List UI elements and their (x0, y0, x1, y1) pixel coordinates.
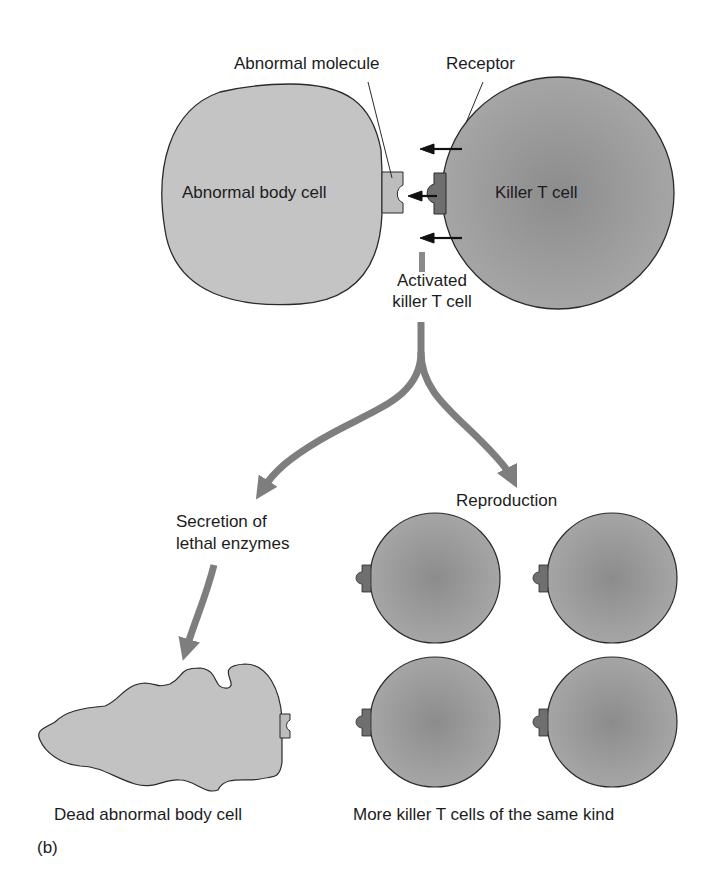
clone-cell-1 (356, 513, 500, 643)
clone-cell-3 (356, 657, 500, 787)
clone-cell-4 (533, 657, 677, 787)
activated-label-line2: killer T cell (372, 292, 492, 312)
dead-cell-molecule-icon (280, 714, 290, 738)
clone-cell-2 (533, 513, 677, 643)
flow-connector (419, 252, 425, 272)
secretion-label-line1: Secretion of (176, 512, 267, 532)
secretion-label-line2: lethal enzymes (176, 534, 289, 554)
abnormal-molecule-icon (382, 172, 403, 213)
dead-abnormal-body-cell (39, 664, 282, 791)
reproduction-label: Reproduction (456, 491, 557, 511)
abnormal-molecule-label: Abnormal molecule (234, 54, 380, 74)
killer-cell-label: Killer T cell (495, 183, 578, 203)
more-killer-cells-label: More killer T cells of the same kind (353, 805, 614, 825)
diagram-canvas (0, 0, 717, 885)
activated-label-line1: Activated (372, 271, 492, 291)
panel-label: (b) (37, 838, 58, 858)
receptor-label: Receptor (446, 54, 515, 74)
dead-cell-label: Dead abnormal body cell (54, 805, 242, 825)
abnormal-cell-label: Abnormal body cell (182, 183, 327, 203)
clone-killer-t-cells (356, 513, 677, 787)
receptor-icon (427, 173, 446, 214)
